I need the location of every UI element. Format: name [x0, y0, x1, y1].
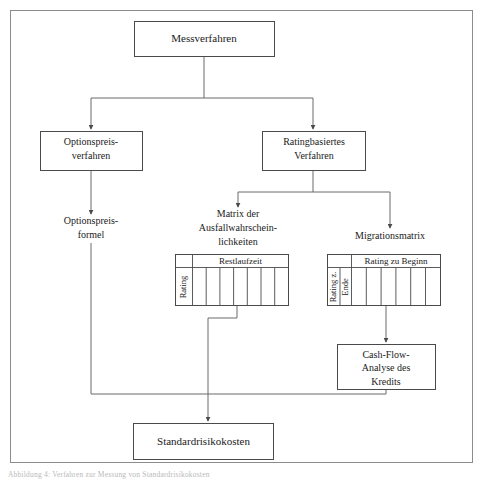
node-matrix-ausfallwahrscheinlichkeiten: Matrix der Ausfallwahrschein- lichkeiten — [199, 208, 277, 247]
node-messverfahren[interactable]: Messverfahren — [135, 22, 275, 57]
node-optionspreisverfahren-label-line2: verfahren — [72, 150, 110, 161]
node-migrationsmatrix: Migrationsmatrix — [355, 230, 425, 241]
table-ausfall-matrix[interactable]: Restlaufzeit Rating — [176, 255, 289, 306]
node-matrix-ausfall-label-line1: Matrix der — [217, 208, 260, 219]
node-matrix-ausfall-label-line3: lichkeiten — [218, 236, 257, 247]
table-migration-row-label-line2: Ende — [340, 278, 350, 296]
flowchart-diagram: Messverfahren Optionspreis- verfahren Ra… — [0, 0, 487, 485]
node-optionspreisformel: Optionspreis- formel — [64, 215, 118, 240]
node-cashflow-label-line1: Cash-Flow- — [362, 349, 409, 360]
table-ausfall-row-label: Rating — [178, 275, 188, 298]
node-standardrisikokosten-label: Standardrisikokosten — [157, 435, 250, 447]
node-optionspreisformel-label-line2: formel — [78, 229, 105, 240]
node-standardrisikokosten[interactable]: Standardrisikokosten — [134, 424, 274, 460]
table-migration-matrix[interactable]: Rating zu Beginn Rating z. Ende — [328, 255, 441, 306]
node-matrix-ausfall-label-line2: Ausfallwahrschein- — [199, 222, 277, 233]
node-ratingbasiertes-label-line2: Verfahren — [294, 150, 333, 161]
table-ausfall-header-label: Restlaufzeit — [219, 256, 262, 266]
table-migration-header-label: Rating zu Beginn — [365, 256, 428, 266]
node-messverfahren-label: Messverfahren — [171, 32, 237, 44]
node-migrationsmatrix-label: Migrationsmatrix — [355, 230, 425, 241]
node-ratingbasiertes-verfahren[interactable]: Ratingbasiertes Verfahren — [263, 132, 366, 171]
node-optionspreisverfahren-label-line1: Optionspreis- — [64, 136, 118, 147]
node-optionspreisverfahren[interactable]: Optionspreis- verfahren — [41, 132, 143, 171]
node-optionspreisformel-label-line1: Optionspreis- — [64, 215, 118, 226]
node-cashflow-label-line2: Analyse des — [362, 362, 411, 373]
figure-caption: Abbildung 4: Verfahren zur Messung von S… — [8, 470, 210, 479]
figure-container: Messverfahren Optionspreis- verfahren Ra… — [0, 0, 487, 485]
table-migration-row-label-line1: Rating z. — [328, 272, 338, 303]
connector-ausfallmatrix-to-bus — [208, 305, 237, 421]
node-ratingbasiertes-label-line1: Ratingbasiertes — [283, 136, 345, 147]
node-cashflow-label-line3: Kredits — [371, 376, 401, 387]
node-cashflow-analyse[interactable]: Cash-Flow- Analyse des Kredits — [338, 345, 436, 390]
